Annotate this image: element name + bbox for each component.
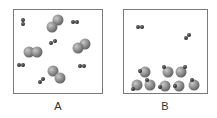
panel-a-label: A [48, 100, 68, 112]
panel-a-large-molecules [24, 15, 91, 84]
panel-b-product-molecules [131, 65, 200, 92]
panel-b-small-molecules [136, 25, 191, 40]
molecule-drawing [0, 0, 217, 118]
panel-b-label: B [155, 100, 175, 112]
